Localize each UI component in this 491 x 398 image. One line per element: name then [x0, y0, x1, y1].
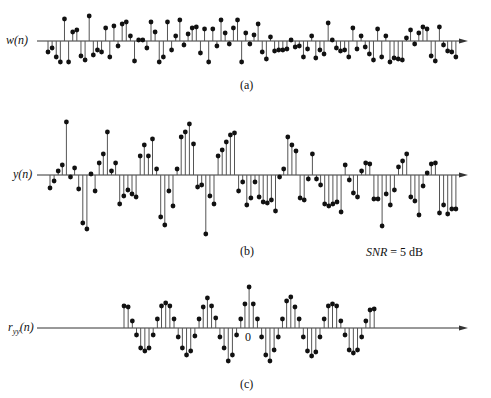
stem-marker: [290, 143, 295, 148]
stem-marker: [236, 189, 241, 194]
stem-marker: [76, 187, 81, 192]
stem-marker: [413, 199, 418, 204]
stem-marker: [253, 180, 258, 185]
stem-marker: [388, 203, 393, 208]
stem-marker: [313, 56, 318, 61]
stem-marker: [368, 308, 373, 313]
stem-marker: [62, 17, 67, 22]
stem-marker: [288, 295, 293, 300]
panel-a-caption: (a): [240, 78, 253, 93]
stem-marker: [318, 183, 323, 188]
stem-marker: [68, 175, 73, 180]
stem-marker: [363, 45, 368, 50]
stem-marker: [89, 172, 94, 177]
stem-marker: [151, 333, 156, 338]
stem-marker: [132, 59, 137, 64]
stem-marker: [298, 196, 303, 201]
stem-marker: [48, 186, 53, 191]
stem-marker: [302, 198, 307, 203]
stem-marker: [416, 31, 421, 36]
axis-arrow-icon: [459, 39, 468, 44]
stem-marker: [334, 46, 339, 51]
stem-marker: [138, 154, 143, 159]
stem-marker: [112, 24, 117, 29]
stem-marker: [261, 200, 266, 205]
stem-marker: [121, 194, 126, 199]
stem-marker: [318, 48, 323, 53]
stem-marker: [305, 349, 310, 354]
stem-marker: [232, 131, 237, 136]
stem-marker: [441, 203, 446, 208]
stem-marker: [235, 18, 240, 23]
stem-marker: [56, 169, 61, 174]
stem-marker: [66, 60, 71, 65]
stem-marker: [421, 184, 426, 189]
stem-marker: [425, 27, 430, 32]
stem-marker: [445, 212, 450, 217]
stem-marker: [244, 203, 249, 208]
stem-marker: [72, 166, 77, 171]
stem-marker: [222, 346, 227, 351]
stem-marker: [255, 317, 260, 322]
stem-marker: [191, 142, 196, 147]
stem-marker: [301, 55, 306, 60]
stem-marker: [335, 200, 340, 205]
snr-value: = 5 dB: [387, 245, 423, 259]
stem-marker: [117, 202, 122, 207]
stem-marker: [215, 44, 220, 49]
panel-c-zero-tick-label: 0: [245, 330, 251, 345]
stem-marker: [330, 302, 335, 307]
stem-marker: [249, 196, 254, 201]
stem-marker: [306, 177, 311, 182]
stem-marker: [103, 26, 108, 31]
stem-marker: [441, 43, 446, 48]
stem-marker: [260, 50, 265, 55]
stem-marker: [198, 51, 203, 56]
panel-a-ylabel: w(n): [6, 33, 28, 48]
stem-marker: [136, 38, 141, 43]
stem-marker: [371, 58, 376, 63]
stem-marker: [251, 302, 256, 307]
stem-marker: [188, 349, 193, 354]
stem-marker: [338, 49, 343, 54]
stem-marker: [330, 38, 335, 43]
stem-marker: [223, 31, 228, 36]
stem-marker: [326, 204, 331, 209]
stem-marker: [197, 317, 202, 322]
panel-c-ylabel: ryy(n): [8, 320, 34, 336]
stem-marker: [247, 285, 252, 290]
stem-marker: [346, 55, 351, 60]
stem-marker: [293, 305, 298, 310]
stem-marker: [219, 18, 224, 23]
stem-marker: [52, 179, 57, 184]
stem-marker: [116, 44, 121, 49]
stem-marker: [359, 34, 364, 39]
stem-marker: [429, 162, 434, 167]
stem-marker: [173, 34, 178, 39]
stem-marker: [240, 180, 245, 185]
stem-marker: [367, 162, 372, 167]
stem-marker: [269, 198, 274, 203]
stem-marker: [142, 349, 147, 354]
stem-marker: [161, 55, 166, 60]
stem-marker: [309, 34, 314, 39]
stem-marker: [454, 207, 459, 212]
stem-marker: [130, 319, 135, 324]
stem-marker: [187, 122, 192, 127]
stem-marker: [351, 351, 356, 356]
stem-marker: [83, 58, 88, 63]
axis-arrow-icon: [459, 326, 468, 331]
stem-marker: [192, 334, 197, 339]
stem-marker: [157, 60, 162, 65]
stem-marker: [101, 152, 106, 157]
stem-marker: [134, 195, 139, 200]
stem-marker: [243, 302, 248, 307]
stem-marker: [60, 163, 65, 168]
stem-marker: [220, 148, 225, 153]
stem-marker: [234, 333, 239, 338]
stem-marker: [70, 30, 75, 35]
stem-marker: [209, 304, 214, 309]
stem-marker: [203, 232, 208, 237]
stem-marker: [165, 20, 170, 25]
stem-marker: [99, 50, 104, 55]
